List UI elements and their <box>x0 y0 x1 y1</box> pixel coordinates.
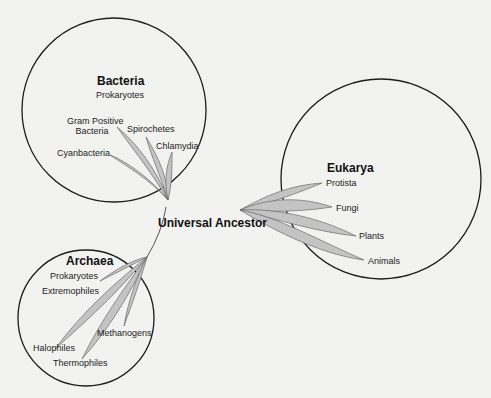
label-methanogens: Methanogens <box>97 328 152 338</box>
tree-of-life-diagram: Universal Ancestor Bacteria Prokaryotes … <box>0 0 491 398</box>
label-animals: Animals <box>368 256 400 266</box>
label-spirochetes: Spirochetes <box>127 124 175 134</box>
label-gram-positive-line1: Gram Positive <box>67 116 117 126</box>
label-halophiles: Halophiles <box>33 343 75 353</box>
universal-ancestor-label: Universal Ancestor <box>158 216 267 230</box>
trunk-to-archaea <box>147 207 166 257</box>
bacteria-circle <box>22 18 206 202</box>
label-thermophiles: Thermophiles <box>53 358 108 368</box>
leaf-chlamydia <box>166 152 172 200</box>
label-plants: Plants <box>359 231 384 241</box>
archaea-subtitle: Prokaryotes <box>50 271 98 281</box>
bacteria-subtitle: Prokaryotes <box>96 90 144 100</box>
label-fungi: Fungi <box>336 203 359 213</box>
label-chlamydia: Chlamydia <box>156 141 199 151</box>
eukarya-circle <box>281 79 481 279</box>
bacteria-title: Bacteria <box>97 74 144 88</box>
diagram-graphics <box>0 0 491 398</box>
eukarya-title: Eukarya <box>327 161 374 175</box>
archaea-title: Archaea <box>66 254 113 268</box>
label-protista: Protista <box>326 178 357 188</box>
label-cyanbacteria: Cyanbacteria <box>57 148 110 158</box>
label-gram-positive-line2: Bacteria <box>67 126 117 136</box>
label-extremophiles: Extremophiles <box>42 286 99 296</box>
